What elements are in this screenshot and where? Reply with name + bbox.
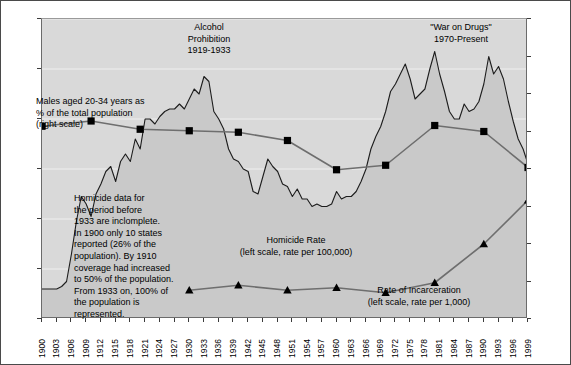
x-axis-tick-label: 1933 bbox=[199, 339, 209, 358]
y-axis-right-tick-mark bbox=[527, 243, 531, 244]
y-axis-left-tick-mark bbox=[37, 68, 41, 69]
x-axis-tick-label: 1981 bbox=[434, 339, 444, 358]
plot-area-wrapper: 024681012 0%5%10%15%20%25%30%35%40% 1900… bbox=[41, 18, 527, 318]
x-axis-tick-label: 1960 bbox=[331, 339, 341, 358]
y-axis-right-tick-mark bbox=[527, 168, 531, 169]
x-axis-tick-mark bbox=[439, 318, 440, 322]
x-axis-tick-label: 1963 bbox=[346, 339, 356, 358]
x-axis-tick-mark bbox=[424, 318, 425, 322]
x-axis-tick-mark bbox=[203, 318, 204, 322]
annotation-homicide-series-label: Homicide Rate (left scale, rate per 100,… bbox=[201, 235, 391, 258]
annotation-data-caveat: Homicide data for the period before 1933… bbox=[74, 193, 194, 321]
x-axis-tick-label: 1945 bbox=[257, 339, 267, 358]
x-axis-tick-mark bbox=[350, 318, 351, 322]
y-axis-left-tick-mark bbox=[37, 268, 41, 269]
annotation-males-series-label: Males aged 20-34 years as % of the total… bbox=[36, 96, 206, 131]
x-axis-tick-label: 1951 bbox=[287, 339, 297, 358]
x-axis-tick-mark bbox=[56, 318, 57, 322]
x-axis-tick-label: 1903 bbox=[51, 339, 61, 358]
x-axis-tick-label: 1999 bbox=[523, 339, 533, 358]
y-axis-right-tick-mark bbox=[527, 131, 531, 132]
y-axis-right-tick-mark bbox=[527, 281, 531, 282]
x-axis-tick-mark bbox=[262, 318, 263, 322]
x-axis-tick-mark bbox=[232, 318, 233, 322]
x-axis-tick-label: 1918 bbox=[125, 339, 135, 358]
x-axis-tick-mark bbox=[218, 318, 219, 322]
x-axis-tick-mark bbox=[394, 318, 395, 322]
x-axis-tick-label: 1900 bbox=[37, 339, 47, 358]
x-axis-tick-label: 1909 bbox=[81, 339, 91, 358]
x-axis-tick-mark bbox=[70, 318, 71, 322]
x-axis-tick-label: 1930 bbox=[184, 339, 194, 358]
x-axis-tick-label: 1921 bbox=[140, 339, 150, 358]
x-axis-tick-mark bbox=[336, 318, 337, 322]
x-axis-tick-mark bbox=[453, 318, 454, 322]
x-axis-tick-mark bbox=[498, 318, 499, 322]
x-axis-tick-label: 1993 bbox=[493, 339, 503, 358]
x-axis-tick-label: 1978 bbox=[419, 339, 429, 358]
x-axis-tick-label: 1969 bbox=[375, 339, 385, 358]
x-axis-tick-label: 1912 bbox=[95, 339, 105, 358]
x-axis-tick-label: 1996 bbox=[508, 339, 518, 358]
y-axis-right-tick-mark bbox=[527, 93, 531, 94]
x-axis-tick-label: 1936 bbox=[213, 339, 223, 358]
x-axis-tick-label: 1927 bbox=[169, 339, 179, 358]
x-axis-tick-mark bbox=[365, 318, 366, 322]
x-axis-tick-label: 1975 bbox=[405, 339, 415, 358]
x-axis-tick-label: 1939 bbox=[228, 339, 238, 358]
x-axis-tick-mark bbox=[512, 318, 513, 322]
y-axis-right-tick-mark bbox=[527, 206, 531, 207]
x-axis-tick-mark bbox=[380, 318, 381, 322]
x-axis-tick-label: 1915 bbox=[110, 339, 120, 358]
x-axis-tick-label: 1957 bbox=[316, 339, 326, 358]
y-axis-left-tick-mark bbox=[37, 168, 41, 169]
x-axis-tick-mark bbox=[321, 318, 322, 322]
x-axis-tick-label: 1987 bbox=[464, 339, 474, 358]
chart-figure: 024681012 0%5%10%15%20%25%30%35%40% 1900… bbox=[0, 0, 571, 365]
x-axis-tick-mark bbox=[247, 318, 248, 322]
x-axis-tick-label: 1972 bbox=[390, 339, 400, 358]
x-axis-tick-label: 1948 bbox=[272, 339, 282, 358]
x-axis-tick-mark bbox=[41, 318, 42, 322]
y-axis-left-tick-mark bbox=[37, 218, 41, 219]
x-axis-tick-label: 1954 bbox=[302, 339, 312, 358]
annotation-incarceration-series-label: Rate of Incarceration (left scale, rate … bbox=[329, 285, 509, 308]
x-axis-tick-mark bbox=[291, 318, 292, 322]
x-axis-tick-label: 1984 bbox=[449, 339, 459, 358]
x-axis-tick-mark bbox=[409, 318, 410, 322]
x-axis-tick-label: 1990 bbox=[478, 339, 488, 358]
x-axis-tick-mark bbox=[468, 318, 469, 322]
annotation-war-on-drugs: "War on Drugs" 1970-Present bbox=[396, 22, 526, 45]
x-axis-tick-mark bbox=[306, 318, 307, 322]
y-axis-right-tick-mark bbox=[527, 18, 531, 19]
y-axis-left-tick-mark bbox=[37, 18, 41, 19]
y-axis-right-tick-mark bbox=[527, 56, 531, 57]
x-axis-tick-label: 1906 bbox=[66, 339, 76, 358]
x-axis-tick-mark bbox=[277, 318, 278, 322]
x-axis-tick-label: 1942 bbox=[243, 339, 253, 358]
x-axis-tick-mark bbox=[483, 318, 484, 322]
x-axis-tick-label: 1966 bbox=[361, 339, 371, 358]
annotation-prohibition: Alcohol Prohibition 1919-1933 bbox=[149, 22, 269, 57]
x-axis-tick-label: 1924 bbox=[154, 339, 164, 358]
x-axis-tick-mark bbox=[527, 318, 528, 322]
